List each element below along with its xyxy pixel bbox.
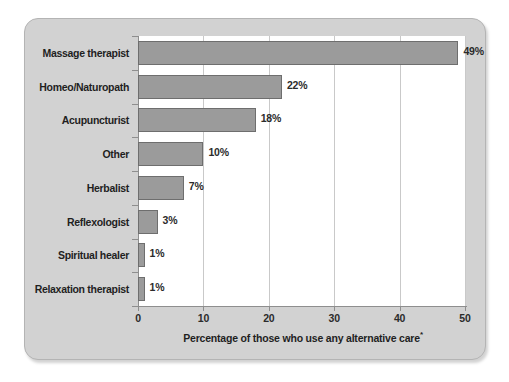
bar-value-label: 49% [463,45,483,57]
bar [138,108,256,132]
x-tick-label-10: 10 [183,312,223,324]
x-tick-label-20: 20 [249,312,289,324]
category-label: Reflexologist [25,216,129,228]
y-tick-mark-2 [132,104,138,105]
category-label: Acupuncturist [25,114,129,126]
bar [138,75,282,99]
bar-value-label: 1% [150,281,165,293]
bar [138,243,145,267]
x-tick-mark-40 [400,307,401,311]
bar-row: 22% [138,75,465,99]
x-tick-mark-20 [269,307,270,311]
x-tick-label-0: 0 [118,312,158,324]
x-tick-mark-10 [203,307,204,311]
x-tick-mark-30 [334,307,335,311]
bar-row: 1% [138,277,465,301]
bar [138,210,158,234]
category-label: Herbalist [25,182,129,194]
y-tick-mark-0 [132,36,138,37]
x-tick-label-30: 30 [314,312,354,324]
x-tick-mark-0 [138,307,139,311]
x-tick-mark-50 [465,307,466,311]
bar-row: 49% [138,41,465,65]
y-tick-mark-7 [132,272,138,273]
y-tick-mark-1 [132,70,138,71]
bar [138,176,184,200]
y-tick-mark-6 [132,239,138,240]
x-axis-line [138,306,467,307]
bar [138,41,458,65]
category-label: Other [25,148,129,160]
bar [138,142,203,166]
chart-panel: 49%22%18%10%7%3%1%1% Massage therapistHo… [24,18,486,360]
category-label: Homeo/Naturopath [25,81,129,93]
y-tick-mark-5 [132,205,138,206]
bar-value-label: 3% [163,214,178,226]
bar-value-label: 7% [189,180,204,192]
bar-value-label: 1% [150,247,165,259]
x-tick-label-50: 50 [445,312,485,324]
bar-row: 10% [138,142,465,166]
category-label: Massage therapist [25,47,129,59]
bar-value-label: 18% [261,112,281,124]
bar-value-label: 22% [287,79,307,91]
y-tick-mark-3 [132,137,138,138]
y-tick-mark-4 [132,171,138,172]
category-label: Relaxation therapist [25,283,129,295]
bar-row: 18% [138,108,465,132]
bar-value-label: 10% [208,146,228,158]
gridline-50 [465,36,466,306]
bar-row: 7% [138,176,465,200]
bar-row: 1% [138,243,465,267]
bar [138,277,145,301]
category-label: Spiritual healer [25,249,129,261]
bar-row: 3% [138,210,465,234]
x-axis-title: Percentage of those who use any alternat… [138,330,468,344]
x-tick-label-40: 40 [380,312,420,324]
footnote-marker: * [420,330,423,339]
